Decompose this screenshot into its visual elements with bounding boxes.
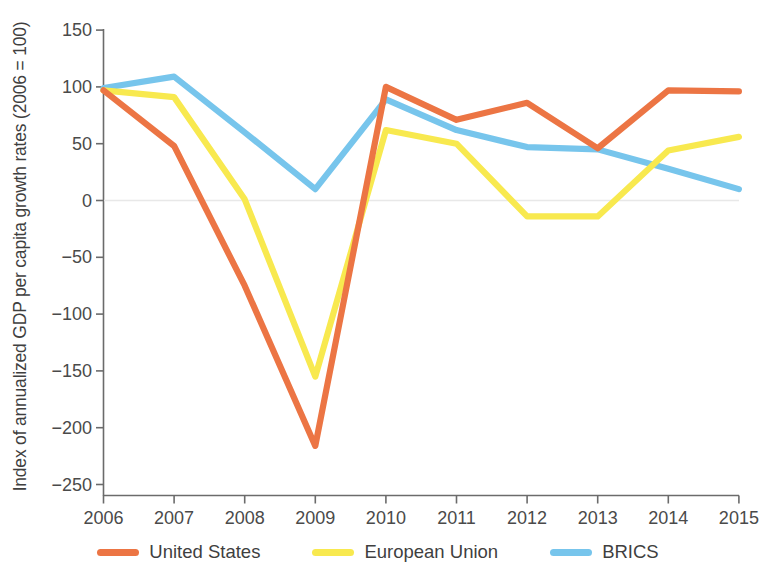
y-axis-tick-label: −200	[30, 417, 92, 438]
y-axis-tick-label: −50	[30, 247, 92, 268]
x-axis-tick-label: 2014	[648, 508, 688, 529]
data-series-layer	[104, 77, 739, 446]
x-axis-ticks	[104, 496, 739, 504]
legend-label: BRICS	[602, 541, 659, 563]
legend-item-european-union[interactable]: European Union	[312, 541, 498, 563]
legend-color-swatch	[550, 549, 592, 556]
x-axis-tick-label: 2012	[507, 508, 547, 529]
legend-label: United States	[149, 541, 260, 563]
x-axis-tick-label: 2013	[578, 508, 618, 529]
x-axis-tick-label: 2015	[719, 508, 759, 529]
y-axis-tick-label: 100	[30, 76, 92, 97]
x-axis-tick-label: 2006	[83, 508, 123, 529]
legend-color-swatch	[312, 549, 354, 556]
legend-label: European Union	[364, 541, 498, 563]
y-axis-tick-label: −250	[30, 474, 92, 495]
y-axis-tick-label: 50	[30, 133, 92, 154]
x-axis-tick-label: 2009	[295, 508, 335, 529]
series-line-united-states	[104, 87, 739, 446]
x-axis-tick-label: 2010	[366, 508, 406, 529]
x-axis-tick-label: 2008	[225, 508, 265, 529]
y-axis-tick-label: −100	[30, 304, 92, 325]
y-axis-tick-label: 0	[30, 190, 92, 211]
y-axis-ticks	[96, 30, 104, 484]
y-axis-tick-label: −150	[30, 360, 92, 381]
legend-item-brics[interactable]: BRICS	[550, 541, 659, 563]
chart-legend: United StatesEuropean UnionBRICS	[0, 534, 756, 570]
legend-item-united-states[interactable]: United States	[97, 541, 260, 563]
series-line-european-union	[104, 90, 739, 376]
x-axis-tick-label: 2007	[154, 508, 194, 529]
y-axis-tick-label: 150	[30, 20, 92, 41]
legend-color-swatch	[97, 549, 139, 556]
x-axis-tick-label: 2011	[437, 508, 476, 529]
